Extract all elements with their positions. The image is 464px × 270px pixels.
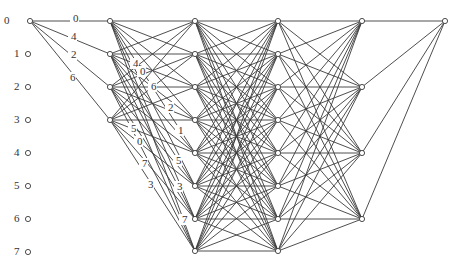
edge <box>278 21 362 186</box>
stage-2-node <box>192 18 197 23</box>
edge-weight-label: 3 <box>148 178 154 190</box>
stage-3-node <box>275 84 280 89</box>
input-node <box>25 249 30 254</box>
stage-3-node <box>275 18 280 23</box>
row-index-label: 7 <box>14 245 20 257</box>
input-node <box>25 51 30 56</box>
row-index-label: 1 <box>14 47 20 59</box>
edge-weight-label: 3 <box>177 180 183 192</box>
stage-2-node <box>192 183 197 188</box>
stage-2-node <box>192 51 197 56</box>
input-node <box>25 117 30 122</box>
row-index-label: 5 <box>14 179 20 191</box>
input-node <box>27 18 32 23</box>
edge-weight-label: 4 <box>71 30 77 42</box>
stage-4-node <box>359 18 364 23</box>
row-labels: 01234567 <box>4 14 20 257</box>
stage-2-node <box>192 216 197 221</box>
row-index-label: 4 <box>14 146 20 158</box>
stage-3-node <box>275 150 280 155</box>
input-node <box>25 183 30 188</box>
stage-1-node <box>107 51 112 56</box>
stage-1-node <box>107 117 112 122</box>
input-node <box>25 216 30 221</box>
row-index-label: 0 <box>4 14 10 26</box>
stage-3-node <box>275 183 280 188</box>
edge-weight-label: 7 <box>142 157 148 169</box>
edge <box>278 219 362 251</box>
edge-weight-label: 0 <box>73 12 79 24</box>
edge-weight-label: 1 <box>178 124 184 136</box>
edge <box>278 21 362 251</box>
stage-1-node <box>107 18 112 23</box>
edge <box>362 21 445 87</box>
input-node <box>25 150 30 155</box>
edge <box>278 21 362 120</box>
edge-weight-label: 0 <box>137 135 143 147</box>
edge-weight-label: 5 <box>176 154 182 166</box>
edge-weight-label: 6 <box>70 71 76 83</box>
stage-3-node <box>275 51 280 56</box>
stage-4-node <box>359 216 364 221</box>
row-index-label: 3 <box>14 113 20 125</box>
stage-3-node <box>275 216 280 221</box>
input-node <box>25 84 30 89</box>
edge-weight-label: 6 <box>151 80 157 92</box>
stage-3-node <box>275 248 280 253</box>
stage-2-node <box>192 248 197 253</box>
row-index-label: 6 <box>14 212 20 224</box>
edge-weight-label: 2 <box>168 101 174 113</box>
stage-2-node <box>192 150 197 155</box>
stage-3-node <box>275 117 280 122</box>
edge <box>362 21 445 153</box>
stage-2-node <box>192 84 197 89</box>
stage-4-node <box>359 84 364 89</box>
stage-2-node <box>192 117 197 122</box>
edges <box>30 21 445 251</box>
edge-weight-label: 0 <box>140 65 146 77</box>
butterfly-graph: 0426406215057337 01234567 <box>0 0 464 270</box>
edge-weight-label: 2 <box>71 48 77 60</box>
edge <box>278 153 362 251</box>
stage-4-node <box>359 150 364 155</box>
edge <box>362 21 445 219</box>
edge-weight-label: 5 <box>131 122 137 134</box>
edge <box>278 21 362 54</box>
edge <box>278 87 362 251</box>
edge-weight-label: 7 <box>182 213 188 225</box>
output-node <box>442 18 447 23</box>
fft-diagram: 0426406215057337 01234567 <box>0 0 464 270</box>
row-index-label: 2 <box>14 80 20 92</box>
stage-1-node <box>107 84 112 89</box>
